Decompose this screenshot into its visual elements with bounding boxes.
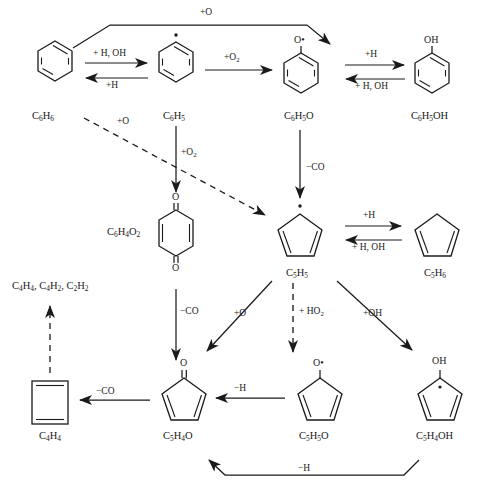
reaction-label-o2-phenyl: +O2 (224, 53, 240, 64)
radical-dot-c5h4oh (438, 385, 441, 388)
species-label-c6h4o2: C6H4O2 (107, 227, 140, 238)
atom-label-c5h4o-O: O (180, 358, 187, 368)
structure-benzoquinone (159, 203, 193, 263)
reaction-label-co-phenoxy: −CO (306, 163, 325, 173)
atom-label-phenol-OH: OH (424, 35, 438, 45)
structure-phenyl-radical (159, 33, 193, 82)
structure-benzene (38, 41, 72, 81)
reaction-label-h-oh-rev-c5h5: + H, OH (352, 243, 385, 253)
species-label-c6h6: C6H6 (32, 111, 54, 122)
reaction-label-o-dashed: +O (117, 117, 129, 127)
structure-cyclopentadienoxy (298, 370, 342, 420)
reaction-label-ho2: + HO2 (299, 307, 324, 318)
structure-phenol (415, 46, 449, 93)
radical-dot-phenyl (174, 33, 177, 36)
reaction-label-h-oh-rev-phenol: + H, OH (355, 82, 388, 92)
reaction-label-o2-quinone: +O2 (181, 148, 197, 159)
species-label-c5h5: C5H5 (286, 268, 308, 279)
reaction-label-co-c4h4: −CO (96, 387, 115, 397)
atom-label-quinone-O-bottom: O (172, 263, 179, 273)
species-label-c6h5oh: C6H5OH (411, 111, 448, 122)
species-label-c5h4oh: C5H4OH (416, 431, 453, 442)
structure-phenoxy-radical (284, 46, 318, 93)
radical-dot-c5h5 (298, 204, 301, 207)
reaction-label-h-fwd-phenol: +H (365, 50, 377, 60)
species-label-c6h5: C6H5 (163, 111, 185, 122)
arrow-bottom-minusH (209, 460, 419, 475)
reaction-label-co-c5h4o: −CO (180, 307, 199, 317)
reaction-label-h-c5h5o: −H (234, 384, 246, 394)
atom-label-c5h5o-O: O• (313, 358, 324, 368)
reaction-diagram-svg (0, 0, 480, 492)
atom-label-quinone-O-top: O (172, 192, 179, 202)
atom-label-phenoxy-O: O• (294, 35, 305, 45)
species-label-c5h5o: C5H5O (299, 431, 329, 442)
reaction-label-top-plus-O: +O (200, 8, 212, 18)
atom-label-c5h4oh-OH: OH (432, 356, 446, 366)
structure-cyclopentadienone (162, 370, 206, 420)
reaction-diagram-canvas: C6H6 C6H5 C6H5O C6H5OH C6H4O2 C5H5 C5H6 … (0, 0, 480, 492)
species-label-c6h5o: C6H5O (284, 111, 314, 122)
reaction-label-h-rev: +H (106, 81, 118, 91)
structure-cyclopentadienyl-radical (278, 204, 322, 256)
structure-hydroxycyclopentadienyl (418, 370, 462, 420)
species-label-c5h6: C5H6 (424, 268, 446, 279)
structure-cyclobutadiene (32, 381, 68, 424)
structure-cyclopentadiene (415, 214, 459, 256)
species-label-products: C4H4, C4H2, C2H2 (12, 281, 89, 292)
species-label-c4h4: C4H4 (39, 431, 61, 442)
reaction-label-h-fwd-c5h6: +H (363, 211, 375, 221)
reaction-label-h-oh-fwd: + H, OH (93, 49, 126, 59)
species-label-c5h4o: C5H4O (163, 431, 193, 442)
arrow-top-plus-O (73, 25, 330, 48)
reaction-label-h-bottom: −H (298, 464, 310, 474)
reaction-label-o-diag: +O (234, 309, 246, 319)
reaction-label-oh-diag: +OH (363, 309, 382, 319)
